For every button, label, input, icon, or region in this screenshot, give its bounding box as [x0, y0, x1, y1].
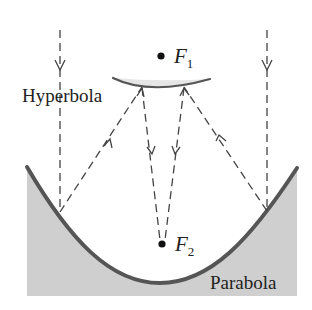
hyperbola-label: Hyperbola [22, 85, 103, 106]
focus-1-dot [157, 52, 164, 59]
focus-2-dot [158, 240, 165, 247]
parabola-label: Parabola [210, 272, 277, 293]
cassegrain-diagram: F1 F2 Hyperbola Parabola [0, 0, 312, 310]
focus-1-label: F1 [173, 44, 193, 71]
focus-2-label: F2 [174, 232, 194, 259]
rays-to-F2 [142, 88, 184, 240]
